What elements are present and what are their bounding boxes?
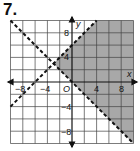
y-tick-neg8: −8: [61, 127, 71, 137]
x-tick-8: 8: [119, 84, 124, 94]
y-axis-label: y: [75, 19, 81, 29]
x-tick-4: 4: [94, 84, 99, 94]
y-tick-neg4: −4: [61, 102, 71, 112]
x-tick-neg4: −4: [40, 84, 50, 94]
x-axis-label: x: [126, 69, 132, 79]
inequality-graph: x y O −8 −4 4 8 8 4 −4 −8: [0, 0, 140, 151]
y-tick-8: 8: [64, 28, 69, 38]
origin-label: O: [63, 84, 70, 94]
y-tick-4: 4: [64, 52, 69, 62]
x-tick-neg8: −8: [15, 84, 25, 94]
